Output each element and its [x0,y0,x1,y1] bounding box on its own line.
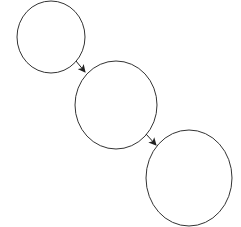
node-1-circle [17,1,85,73]
arrow-node-2-to-node-3 [146,134,156,145]
arrow-node-1-to-node-2 [76,61,85,72]
diagram-canvas [0,0,241,227]
node-2-circle [75,61,157,149]
node-3-circle [146,130,232,226]
